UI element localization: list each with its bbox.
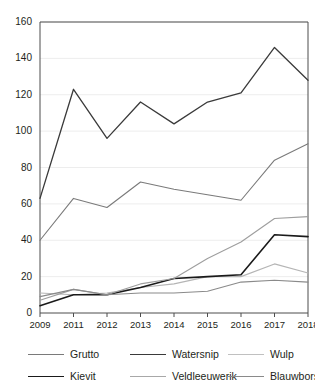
legend-item-watersnip[interactable]: Watersnip bbox=[130, 344, 219, 365]
legend-item-veldleeuwerik[interactable]: Veldleeuwerik bbox=[130, 366, 237, 387]
y-tick-label: 40 bbox=[2, 235, 32, 245]
legend-label: Grutto bbox=[70, 349, 99, 360]
legend-label: Blauwborst bbox=[270, 371, 315, 382]
series-lines bbox=[40, 47, 308, 305]
series-line-kievit bbox=[40, 235, 308, 306]
series-line-watersnip bbox=[40, 47, 308, 198]
x-tick-label: 2016 bbox=[224, 320, 258, 330]
y-tick-label: 160 bbox=[2, 17, 32, 27]
legend-label: Watersnip bbox=[172, 349, 219, 360]
legend-line-swatch bbox=[228, 354, 264, 355]
x-tick-label: 2014 bbox=[157, 320, 191, 330]
legend-line-swatch bbox=[28, 354, 64, 355]
legend-line-swatch bbox=[130, 376, 166, 377]
x-tick-label: 2013 bbox=[124, 320, 158, 330]
x-tick-label: 2011 bbox=[57, 320, 91, 330]
legend-item-blauwborst[interactable]: Blauwborst bbox=[228, 366, 315, 387]
legend-label: Kievit bbox=[70, 371, 96, 382]
y-tick-label: 140 bbox=[2, 53, 32, 63]
x-tick-label: 2015 bbox=[191, 320, 225, 330]
y-tick-label: 100 bbox=[2, 126, 32, 136]
x-tick-marks bbox=[40, 313, 308, 317]
legend-item-kievit[interactable]: Kievit bbox=[28, 366, 96, 387]
series-line-grutto bbox=[40, 144, 308, 240]
legend-item-grutto[interactable]: Grutto bbox=[28, 344, 99, 365]
plot-area bbox=[0, 0, 315, 390]
legend-item-wulp[interactable]: Wulp bbox=[228, 344, 294, 365]
y-tick-label: 60 bbox=[2, 199, 32, 209]
x-tick-label: 2018 bbox=[291, 320, 315, 330]
series-line-veldleeuwerik bbox=[40, 217, 308, 301]
y-tick-label: 0 bbox=[2, 308, 32, 318]
x-tick-label: 2017 bbox=[258, 320, 292, 330]
x-tick-label: 2012 bbox=[90, 320, 124, 330]
legend-row: KievitVeldleeuwerikBlauwborst bbox=[0, 366, 315, 387]
legend-label: Wulp bbox=[270, 349, 294, 360]
legend-line-swatch bbox=[228, 376, 264, 377]
gridlines bbox=[40, 22, 308, 277]
y-tick-label: 80 bbox=[2, 163, 32, 173]
y-tick-label: 120 bbox=[2, 90, 32, 100]
x-tick-label: 2009 bbox=[23, 320, 57, 330]
chart-legend: GruttoWatersnipWulpKievitVeldleeuwerikBl… bbox=[0, 344, 315, 390]
legend-row: GruttoWatersnipWulp bbox=[0, 344, 315, 365]
line-chart: 160140120100806040200 200920112012201320… bbox=[0, 0, 315, 390]
legend-line-swatch bbox=[28, 376, 64, 377]
legend-line-swatch bbox=[130, 354, 166, 355]
y-tick-label: 20 bbox=[2, 272, 32, 282]
